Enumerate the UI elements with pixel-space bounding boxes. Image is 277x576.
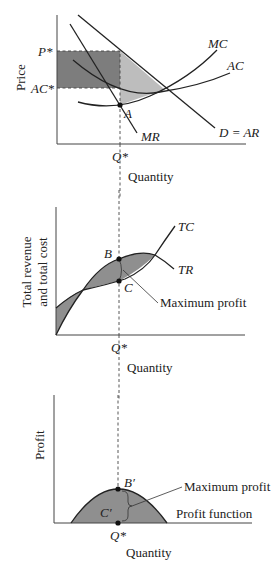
point-c-prime-label: C′ (100, 505, 112, 520)
profit-axes (54, 395, 252, 523)
profit-panel: Profit B′ C′ Maximum profit Profit funct… (32, 395, 271, 560)
price-panel: Price P* AC* A MC AC D = AR MR Q* Quanti… (13, 15, 259, 184)
mr-label: MR (140, 129, 160, 144)
quantity-label-1: Quantity (128, 169, 174, 184)
point-b (116, 256, 121, 261)
point-c-label: C (124, 280, 133, 295)
point-a-label: A (123, 106, 132, 121)
q-star-label-3: Q* (110, 528, 126, 543)
profit-rectangle (57, 51, 120, 88)
ac-star-label: AC* (30, 81, 55, 96)
deadweight-region (120, 51, 165, 105)
point-b-prime (115, 486, 120, 491)
point-q-star (115, 520, 120, 525)
point-a (117, 102, 122, 107)
p-star-label: P* (37, 44, 53, 59)
ac-label: AC (226, 58, 244, 73)
tr-label: TR (178, 262, 193, 277)
price-y-label: Price (13, 64, 28, 91)
tc-label: TC (178, 219, 194, 234)
economics-diagram: Price P* AC* A MC AC D = AR MR Q* Quanti… (0, 0, 277, 576)
total-y-label-2: and total cost (35, 237, 50, 307)
point-b-label: B (104, 246, 112, 261)
total-axes (56, 207, 245, 335)
point-b-prime-label: B′ (124, 475, 135, 490)
max-profit-label-2: Maximum profit (160, 295, 247, 310)
mc-label: MC (207, 36, 228, 51)
q-star-label-2: Q* (111, 340, 127, 355)
point-c (116, 278, 121, 283)
total-y-label-1: Total revenue (19, 236, 34, 307)
demand-label: D = AR (218, 125, 259, 140)
total-panel: Total revenue and total cost B C TC TR M… (19, 207, 247, 375)
quantity-label-2: Quantity (127, 360, 173, 375)
max-profit-label-3: Maximum profit (184, 479, 271, 494)
profit-y-label: Profit (32, 430, 47, 460)
quantity-label-3: Quantity (126, 545, 172, 560)
profit-function-label: Profit function (176, 506, 253, 521)
